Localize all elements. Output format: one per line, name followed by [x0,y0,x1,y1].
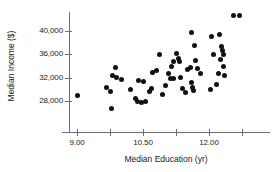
y-tick-label: 36,000 [18,49,63,59]
x-tick-label: 9.00 [60,138,94,147]
data-point [141,79,146,84]
data-point [174,51,179,56]
x-axis-title: Median Education (yr) [62,154,270,164]
y-tick-label: 28,000 [18,96,63,106]
data-point [192,43,197,48]
data-point [128,87,133,92]
data-point [214,82,219,87]
data-point [218,57,223,62]
data-point [217,32,222,37]
data-point [171,76,176,81]
data-point [231,13,236,18]
x-tick-mark [143,129,144,136]
y-axis-title: Median Income ($) [6,11,16,121]
data-point [198,71,203,76]
data-point [216,71,221,76]
data-point [108,89,113,94]
data-point [149,86,154,91]
data-point [75,93,80,98]
data-point [143,99,148,104]
y-tick-mark [65,54,72,55]
data-point [154,68,159,73]
x-tick-mark [209,129,210,136]
data-point [191,88,196,93]
y-axis-line [69,12,70,132]
data-point [177,59,182,64]
data-point [157,52,162,57]
x-tick-mark [176,129,177,136]
data-point [163,83,168,88]
y-tick-label: 32,000 [18,73,63,83]
data-point [169,64,174,69]
data-point [188,65,193,70]
data-point [183,90,188,95]
data-point [222,73,227,78]
x-tick-label: 12.00 [192,138,226,147]
data-point [208,87,213,92]
y-tick-label-text: 32,000 [21,73,63,82]
data-point [171,59,176,64]
data-point [113,65,118,70]
y-tick-label: 40,000 [18,26,63,36]
x-axis-line [62,132,270,133]
data-point [189,30,194,35]
scatter-plot-figure: 40,00036,00032,00028,000 9.0010.5012.00 … [0,0,277,172]
plot-area: 40,00036,00032,00028,000 9.0010.5012.00 … [0,0,277,172]
x-tick-mark [110,129,111,136]
data-point [209,34,214,39]
x-tick-mark [242,129,243,136]
y-tick-mark [65,78,72,79]
data-point [109,106,114,111]
data-point [237,13,242,18]
y-tick-mark [65,31,72,32]
data-point [178,75,183,80]
y-tick-label-text: 40,000 [21,26,63,35]
x-tick-label: 10.50 [126,138,160,147]
data-point [160,92,165,97]
data-point [221,64,226,69]
data-point [119,77,124,82]
data-point [211,52,216,57]
y-tick-label-text: 28,000 [21,96,63,105]
x-tick-mark [77,129,78,136]
data-point [166,71,171,76]
y-tick-label-text: 36,000 [21,49,63,58]
data-point [193,58,198,63]
y-tick-mark [65,101,72,102]
